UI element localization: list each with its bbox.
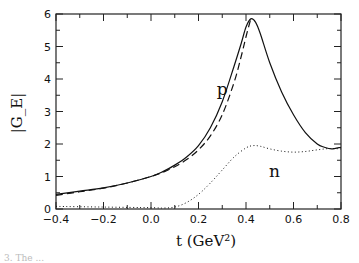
x-axis-title: t (GeV²) — [176, 232, 236, 250]
series-dashed — [56, 19, 251, 195]
svg-text:1: 1 — [44, 171, 51, 184]
y-axis-title: |G_E| — [8, 93, 26, 134]
svg-text:3: 3 — [44, 106, 51, 119]
svg-text:0.6: 0.6 — [285, 213, 303, 226]
svg-text:0.0: 0.0 — [142, 213, 160, 226]
plot-frame — [56, 14, 341, 209]
axis-tick-labels: −0.4−0.20.00.20.40.60.80123456 — [43, 8, 350, 226]
svg-text:0: 0 — [44, 203, 51, 216]
svg-text:0.8: 0.8 — [332, 213, 350, 226]
chart: −0.4−0.20.00.20.40.60.80123456 pn t (GeV… — [0, 0, 359, 263]
data-series — [56, 19, 341, 208]
series-solid — [56, 19, 341, 195]
svg-text:0.4: 0.4 — [237, 213, 255, 226]
svg-text:−0.2: −0.2 — [90, 213, 117, 226]
annotation-n: n — [269, 161, 280, 181]
svg-text:6: 6 — [44, 8, 51, 21]
y-axis-title-text: |G_E| — [8, 93, 26, 134]
svg-text:4: 4 — [44, 73, 51, 86]
series-dotted — [56, 146, 341, 209]
axis-ticks — [56, 14, 341, 209]
svg-text:2: 2 — [44, 138, 51, 151]
annotation-p: p — [217, 79, 228, 99]
svg-text:0.2: 0.2 — [190, 213, 208, 226]
figure-caption: 3. The ... — [4, 253, 44, 263]
svg-text:5: 5 — [44, 41, 51, 54]
